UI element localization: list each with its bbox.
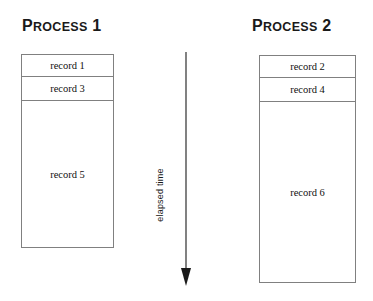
process-1-title: PROCESS 1 [22,17,102,35]
record-block[interactable]: record 1 [22,55,113,77]
process-2-record-stack: record 2 record 4 record 6 [259,55,356,283]
record-block[interactable]: record 3 [22,77,113,101]
record-label: record 1 [50,60,85,71]
process-1-record-stack: record 1 record 3 record 5 [21,54,114,248]
arrow-head-icon [181,268,191,286]
record-block[interactable]: record 5 [22,101,113,247]
record-block[interactable]: record 4 [260,78,355,102]
record-block[interactable]: record 6 [260,102,355,282]
record-block[interactable]: record 2 [260,56,355,78]
process-2-title-rest: ROCESS [263,20,318,34]
record-label: record 5 [50,169,85,180]
process-2-number: 2 [322,17,331,34]
record-label: record 2 [290,61,325,72]
record-label: record 4 [290,84,325,95]
process-1-number: 1 [92,17,101,34]
process-2-title: PROCESS 2 [252,17,332,35]
process-1-title-rest: ROCESS [33,20,88,34]
process-2-title-initial: P [252,17,263,34]
process-1-title-initial: P [22,17,33,34]
elapsed-time-label: elapsed time [155,168,165,221]
diagram-canvas: PROCESS 1 PROCESS 2 record 1 record 3 re… [0,0,373,301]
record-label: record 6 [290,187,325,198]
record-label: record 3 [50,83,85,94]
